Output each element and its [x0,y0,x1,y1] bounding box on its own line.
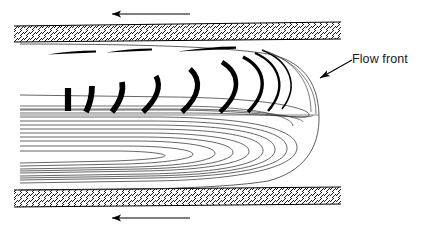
velocity-marker-group [68,50,291,112]
diagram-canvas: Flow front [0,0,435,232]
bottom-plate [10,183,350,213]
flow-front-leader [320,60,352,78]
streamline-group [20,95,309,183]
flow-front-label: Flow front [352,52,408,66]
top-plate [10,18,350,48]
flow-front-diagram-svg [0,0,435,232]
nose-inner-curves [268,52,316,114]
